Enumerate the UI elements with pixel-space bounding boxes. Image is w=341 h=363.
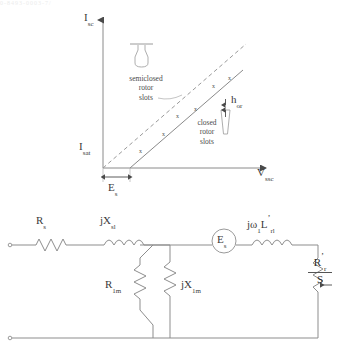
label-jx1m-sub: 1m — [192, 287, 201, 295]
i-sat-label: Isat — [79, 141, 90, 155]
label-jw1lrl: jω1L’rl — [247, 216, 275, 233]
data-marker-2: x — [162, 131, 165, 137]
label-rr-base: R — [314, 256, 321, 268]
label-jw1lrl-jw: jω — [247, 218, 257, 230]
circuit-diagram — [8, 229, 332, 340]
label-rr-over-s: R’r S — [308, 254, 332, 286]
label-jx1m: jX1m — [181, 279, 201, 293]
data-marker-4: x — [194, 106, 197, 112]
label-r1m-sub: 1m — [112, 287, 121, 295]
data-marker-5: x — [212, 83, 215, 89]
inductor-jxsl-symbol — [104, 240, 144, 245]
semiclosed-note-line-3: slots — [113, 93, 179, 102]
x-axis-label: Vssc — [257, 167, 274, 181]
closed-rotor-slots-note: closed rotor slots — [185, 118, 229, 146]
semiclosed-note-line-1: semiclosed — [113, 74, 179, 83]
label-es-base: E — [217, 233, 224, 245]
resistor-rs-symbol — [36, 239, 66, 251]
label-es: Es — [217, 234, 226, 248]
data-marker-1: x — [139, 148, 142, 154]
terminal-top-left — [8, 243, 12, 247]
label-jw1lrl-jw-sub: 1 — [257, 227, 261, 235]
label-jxsl-sub: sl — [111, 223, 116, 231]
closed-note-line-2: rotor — [185, 127, 229, 136]
figure-vector-layer — [0, 0, 341, 363]
x-axis-label-sub: ssc — [265, 175, 274, 183]
data-marker-6: x — [228, 75, 231, 81]
semiclosed-trend-line — [103, 44, 246, 168]
resistor-jx1m-symbol — [164, 262, 176, 296]
label-s-denominator: S — [308, 274, 332, 286]
y-axis-label: Isc — [84, 12, 94, 26]
resistor-r1m-symbol — [134, 265, 146, 299]
label-jw1lrl-prime: ’ — [268, 213, 271, 223]
inductor-jw1lrl-symbol — [252, 240, 292, 245]
x-axis-label-base: V — [257, 166, 265, 178]
label-r1m: R1m — [105, 279, 121, 293]
label-jxsl-base: jX — [100, 214, 111, 226]
series-semiclosed-rotor-slots — [103, 44, 246, 168]
label-rs-sub: s — [43, 223, 46, 231]
e-s-label: Es — [108, 182, 117, 196]
label-jw1lrl-l: L — [261, 218, 268, 230]
terminal-bottom-left — [8, 336, 12, 340]
es-span-indicator — [103, 168, 130, 182]
label-jx1m-base: jX — [181, 278, 192, 290]
label-rs: Rs — [36, 215, 46, 229]
wire-r1m-bot-diag — [140, 310, 153, 325]
label-jw1lrl-sub: rl — [271, 227, 275, 235]
i-sat-label-sub: sat — [83, 149, 91, 157]
label-rr-prime: ’ — [321, 251, 324, 261]
closed-note-line-3: slots — [185, 137, 229, 146]
data-marker-3: x — [176, 113, 179, 119]
wire-r1m-top-diag — [140, 245, 153, 258]
h-or-label: hor — [231, 94, 242, 108]
figure-root: 0-8493-0003-7/ — [0, 0, 341, 363]
e-s-label-base: E — [108, 181, 115, 193]
semiclosed-note-line-2: rotor — [113, 83, 179, 92]
y-axis-label-sub: sc — [88, 20, 94, 28]
semiclosed-slot-pictogram — [130, 44, 153, 67]
h-or-label-sub: or — [237, 102, 243, 110]
label-rr-numerator: R’r — [314, 256, 327, 268]
label-rr-sub: r — [324, 265, 326, 273]
closed-note-line-1: closed — [185, 118, 229, 127]
h-or-label-base: h — [231, 93, 237, 105]
semiclosed-rotor-slots-note: semiclosed rotor slots — [113, 74, 179, 102]
label-jxsl: jXsl — [100, 215, 116, 229]
